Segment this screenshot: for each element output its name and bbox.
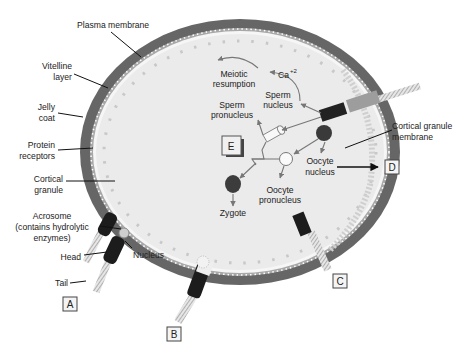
label-jelly-coat-2: coat [39, 113, 56, 123]
label-sperm-pronucleus-2: pronucleus [211, 110, 253, 120]
label-cortical-granule-membrane-2: membrane [392, 132, 433, 142]
label-protein-receptors-1: Protein [28, 140, 55, 150]
fertilization-diagram: Plasma membrane Vitelline layer Jelly co… [0, 0, 464, 351]
label-sperm-nucleus-1: Sperm [265, 90, 290, 100]
label-acrosome-1: Acrosome [33, 211, 72, 221]
svg-text:D: D [388, 162, 395, 173]
label-zygote: Zygote [220, 208, 246, 218]
label-meiotic-2: resumption [213, 79, 256, 89]
label-oocyte-pronucleus-1: Oocyte [266, 185, 293, 195]
stage-box-c: C [333, 274, 347, 288]
label-vitelline-layer-1: Vitelline [42, 61, 72, 71]
acrosome-cap [119, 228, 129, 238]
oocyte-nucleus-shape [316, 125, 332, 141]
svg-text:A: A [67, 299, 74, 310]
label-sperm-pronucleus-1: Sperm [219, 100, 244, 110]
label-cortical-granule-membrane-1: Cortical granule [392, 121, 452, 131]
label-jelly-coat-1: Jelly [38, 102, 56, 112]
label-tail: Tail [55, 278, 68, 288]
svg-text:C: C [336, 276, 343, 287]
label-meiotic-1: Meiotic [220, 69, 248, 79]
label-calcium-sup: +2 [290, 68, 298, 74]
label-oocyte-nucleus-1: Oocyte [306, 156, 333, 166]
label-vitelline-layer-2: layer [53, 72, 72, 82]
label-calcium: Ca [278, 70, 289, 80]
stage-box-d: D [385, 160, 399, 174]
svg-text:B: B [171, 329, 178, 340]
oocyte-pronucleus-shape [280, 153, 293, 166]
label-protein-receptors-2: receptors [19, 151, 55, 161]
stage-box-e-label: E [228, 141, 235, 152]
label-oocyte-pronucleus-2: pronucleus [259, 195, 301, 205]
stage-box-a: A [63, 297, 77, 311]
label-nucleus: Nucleus [133, 250, 164, 260]
label-acrosome-2: (contains hydrolytic [15, 222, 89, 232]
label-head: Head [60, 252, 81, 262]
zygote-shape [225, 175, 241, 193]
label-oocyte-nucleus-2: nucleus [305, 167, 335, 177]
label-cortical-granule-1: Cortical [34, 174, 63, 184]
stage-box-b: B [167, 327, 181, 341]
label-sperm-nucleus-2: nucleus [263, 100, 293, 110]
label-cortical-granule-2: granule [34, 185, 63, 195]
label-acrosome-3: enzymes) [33, 233, 70, 243]
label-plasma-membrane: Plasma membrane [77, 20, 149, 30]
